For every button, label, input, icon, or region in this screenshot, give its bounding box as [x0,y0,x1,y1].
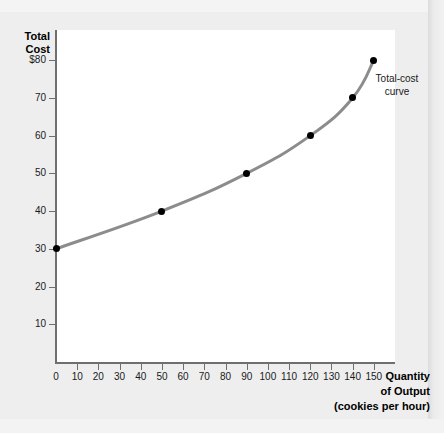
data-point [243,170,250,177]
data-point [370,57,377,64]
x-axis-title-line1: Quantity [270,369,430,384]
curve-annotation-label: Total-cost curve [361,72,433,98]
data-point [307,132,314,139]
curve-annotation-line2: curve [361,85,433,98]
data-point [53,245,60,252]
x-axis-title-line2: of Output [270,384,430,399]
x-axis-title-line3: (cookies per hour) [270,399,430,414]
curve-annotation-line1: Total-cost [361,72,433,85]
total-cost-curve-chart: Total Cost 10203040506070$80 01020304050… [0,0,444,433]
x-axis-title: Quantity of Output (cookies per hour) [270,369,430,414]
